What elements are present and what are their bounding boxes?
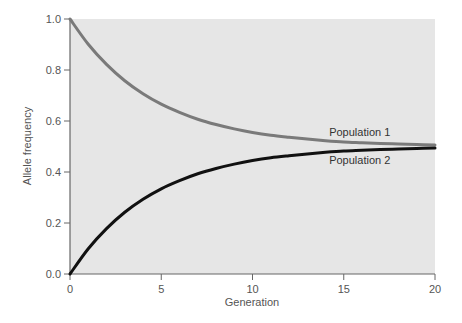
- y-tick-label: 0.0: [46, 268, 61, 280]
- x-tick-label: 20: [429, 283, 441, 295]
- plot-area: [70, 19, 435, 274]
- y-tick-label: 0.4: [46, 166, 61, 178]
- series-label-population-2: Population 2: [329, 154, 390, 166]
- x-axis-title: Generation: [225, 296, 279, 308]
- x-tick-label: 10: [246, 283, 258, 295]
- y-tick-label: 0.6: [46, 115, 61, 127]
- line-chart: 0.00.20.40.60.81.005101520 Population 1P…: [0, 0, 462, 323]
- x-tick-label: 0: [67, 283, 73, 295]
- x-tick-label: 5: [158, 283, 164, 295]
- y-axis-title: Allele frequency: [21, 106, 33, 185]
- y-tick-label: 0.8: [46, 64, 61, 76]
- y-tick-label: 0.2: [46, 217, 61, 229]
- x-tick-label: 15: [338, 283, 350, 295]
- y-tick-label: 1.0: [46, 13, 61, 25]
- series-label-population-1: Population 1: [329, 126, 390, 138]
